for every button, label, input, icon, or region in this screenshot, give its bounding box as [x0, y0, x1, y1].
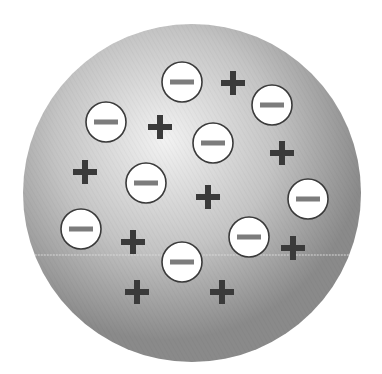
minus-icon [69, 227, 93, 232]
minus-icon [260, 103, 284, 108]
atom-svg [0, 0, 382, 374]
minus-icon [237, 235, 261, 240]
electron [162, 62, 202, 102]
electron [162, 242, 202, 282]
minus-icon [94, 120, 118, 125]
minus-icon [296, 197, 320, 202]
electron [288, 179, 328, 219]
electron [126, 163, 166, 203]
electron [86, 102, 126, 142]
electron [61, 209, 101, 249]
minus-icon [170, 80, 194, 85]
minus-icon [170, 260, 194, 265]
atom-diagram [0, 0, 382, 374]
electron [193, 123, 233, 163]
electron [229, 217, 269, 257]
electron [252, 85, 292, 125]
minus-icon [201, 141, 225, 146]
minus-icon [134, 181, 158, 186]
